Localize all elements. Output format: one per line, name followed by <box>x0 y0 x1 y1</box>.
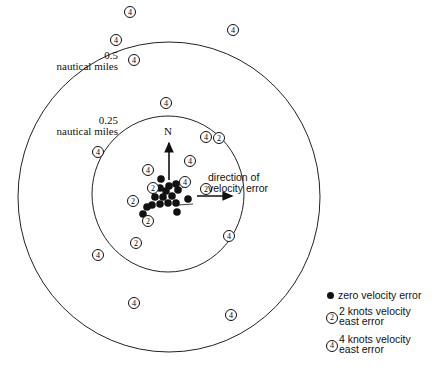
legend-two: 2 2 knots velocity east error <box>326 306 411 326</box>
zero-velocity-point <box>157 175 165 183</box>
four-knot-point: 4 <box>161 98 172 109</box>
four-knot-point: 4 <box>226 310 237 321</box>
svg-text:4: 4 <box>114 36 118 45</box>
four-knot-point: 4 <box>111 35 122 46</box>
svg-text:2: 2 <box>217 134 221 143</box>
zero-velocity-point <box>148 201 156 209</box>
inner-radius-unit: nautical miles <box>40 126 118 137</box>
svg-text:4: 4 <box>132 299 136 308</box>
svg-text:4: 4 <box>204 133 208 142</box>
direction-line-2: velocity error <box>208 183 268 194</box>
zero-velocity-point <box>172 199 180 207</box>
svg-text:4: 4 <box>164 99 168 108</box>
legend-four: 4 4 knots velocity east error <box>326 334 411 354</box>
zero-velocity-point <box>173 208 181 216</box>
outer-radius-label: 0.5 nautical miles <box>40 50 118 72</box>
svg-text:4: 4 <box>188 157 192 166</box>
four-knot-point: 4 <box>143 165 154 176</box>
four-knot-point: 4 <box>129 298 140 309</box>
legend-zero-label: zero velocity error <box>338 290 421 300</box>
four-knot-point: 4 <box>93 147 104 158</box>
two-knot-point: 2 <box>128 196 139 207</box>
zero-velocity-point <box>151 193 159 201</box>
svg-text:4: 4 <box>231 26 235 35</box>
legend-four-label: 4 knots velocity east error <box>339 334 411 354</box>
circled-4-icon: 4 <box>326 340 338 352</box>
svg-text:4: 4 <box>132 56 136 65</box>
zero-velocity-point <box>156 200 164 208</box>
zero-velocity-point <box>174 186 182 194</box>
svg-text:4: 4 <box>96 251 100 260</box>
zero-velocity-point <box>168 192 176 200</box>
two-knot-point: 2 <box>214 133 225 144</box>
outer-radius-unit: nautical miles <box>40 61 118 72</box>
svg-text:2: 2 <box>151 184 155 193</box>
four-knot-point: 4 <box>93 250 104 261</box>
inner-radius-label: 0.25 nautical miles <box>40 115 118 137</box>
svg-text:4: 4 <box>227 232 231 241</box>
direction-label: direction of velocity error <box>208 172 268 194</box>
two-knot-point: 2 <box>131 238 142 249</box>
four-knot-point: 4 <box>125 7 136 18</box>
four-knot-point: 4 <box>224 231 235 242</box>
zero-velocity-point <box>184 195 192 203</box>
filled-dot-icon <box>327 292 334 299</box>
svg-text:2: 2 <box>134 239 138 248</box>
zero-velocity-point <box>159 193 167 201</box>
four-knot-point: 4 <box>228 25 239 36</box>
svg-text:4: 4 <box>229 311 233 320</box>
four-knot-point: 4 <box>185 156 196 167</box>
svg-text:4: 4 <box>146 166 150 175</box>
zero-velocity-point <box>164 199 172 207</box>
four-knot-point: 4 <box>201 132 212 143</box>
svg-text:2: 2 <box>146 217 150 226</box>
two-knot-point: 2 <box>143 216 154 227</box>
four-knot-point: 4 <box>180 177 191 188</box>
svg-text:4: 4 <box>128 8 132 17</box>
svg-text:2: 2 <box>131 197 135 206</box>
legend-zero: zero velocity error <box>327 290 421 300</box>
legend-two-label: 2 knots velocity east error <box>339 306 411 326</box>
north-label: N <box>163 126 173 137</box>
circled-2-icon: 2 <box>326 312 338 324</box>
leader-line <box>178 204 193 205</box>
two-knot-point: 2 <box>148 183 159 194</box>
svg-text:4: 4 <box>183 178 187 187</box>
svg-text:4: 4 <box>96 148 100 157</box>
four-knot-point: 4 <box>129 55 140 66</box>
